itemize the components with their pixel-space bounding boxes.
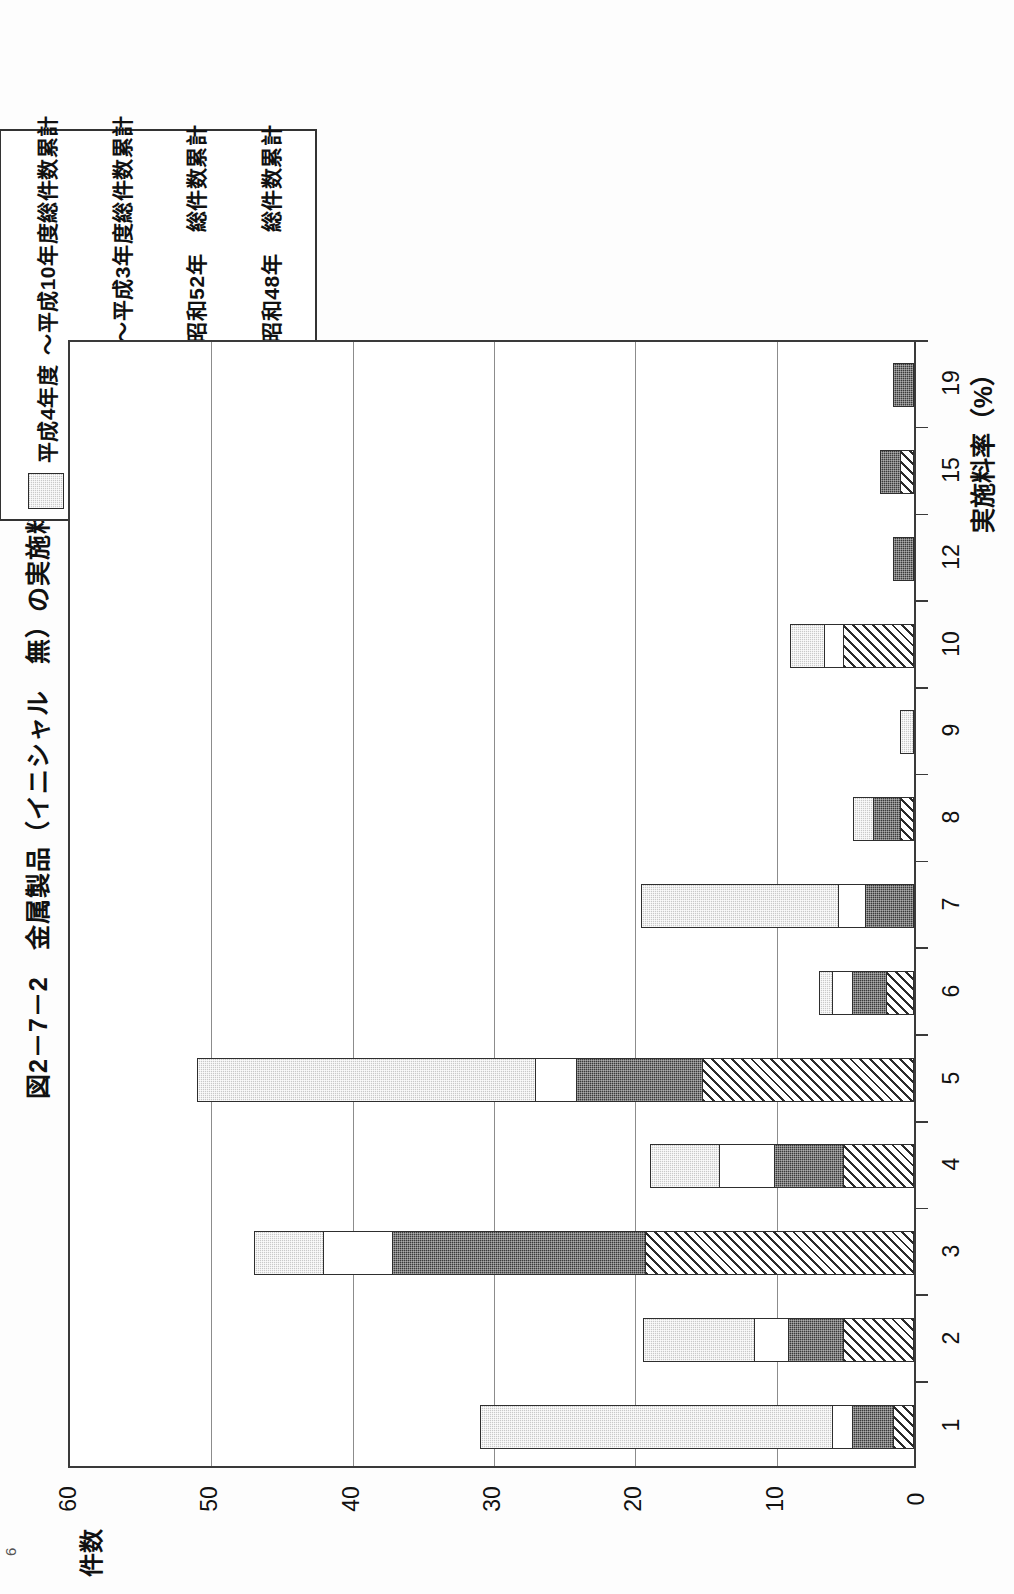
- bar-segment: [880, 450, 901, 494]
- value-tick-label: 40: [338, 1471, 364, 1527]
- bar-row: [199, 1058, 914, 1102]
- bar-segment: [900, 710, 914, 754]
- bar-row: [643, 884, 914, 928]
- category-tick-mark: [916, 947, 928, 949]
- bar-segment: [535, 1058, 577, 1102]
- category-tick-mark: [916, 861, 928, 863]
- bar-segment: [392, 1231, 646, 1275]
- bar-segment: [790, 624, 825, 668]
- category-tick-mark: [916, 687, 928, 689]
- legend-label-line1: 平成4年度: [31, 365, 61, 463]
- bar-row: [855, 797, 914, 841]
- bar-segment: [852, 1405, 894, 1449]
- value-tick-label: 20: [620, 1471, 646, 1527]
- category-tick-mark: [916, 514, 928, 516]
- category-tick-label: 5: [938, 1049, 964, 1107]
- gridline: [635, 342, 636, 1466]
- bar-segment: [838, 884, 866, 928]
- legend-label-line2: ～平成3年度総件数累計: [106, 115, 136, 342]
- bar-segment: [641, 884, 839, 928]
- category-tick-mark: [916, 1121, 928, 1123]
- category-tick-mark: [916, 1208, 928, 1210]
- category-tick-label: 6: [938, 962, 964, 1020]
- bar-row: [821, 971, 914, 1015]
- bar-segment: [873, 797, 901, 841]
- plot-area: [68, 340, 916, 1468]
- category-tick-mark: [916, 1381, 928, 1383]
- bar-row: [481, 1405, 914, 1449]
- bar-segment: [645, 1231, 914, 1275]
- bar-row: [255, 1231, 914, 1275]
- gridline: [494, 342, 495, 1466]
- bar-row: [651, 1144, 914, 1188]
- bar-segment: [893, 363, 914, 407]
- bar-segment: [576, 1058, 703, 1102]
- category-tick-label: 10: [938, 615, 964, 673]
- bar-segment: [843, 1318, 914, 1362]
- bar-segment: [480, 1405, 833, 1449]
- bar-row: [894, 363, 914, 407]
- category-tick-label: 1: [938, 1396, 964, 1454]
- category-tick-label: 2: [938, 1309, 964, 1367]
- category-tick-mark: [916, 340, 928, 342]
- bar-row: [894, 537, 914, 581]
- legend-label-line2: ～昭和52年 総件数累計: [180, 125, 210, 364]
- bar-segment: [788, 1318, 845, 1362]
- category-tick-label: 4: [938, 1135, 964, 1193]
- value-tick-label: 0: [903, 1471, 929, 1527]
- bar-segment: [254, 1231, 325, 1275]
- bar-segment: [197, 1058, 536, 1102]
- bar-segment: [702, 1058, 914, 1102]
- category-tick-mark: [916, 427, 928, 429]
- category-tick-mark: [916, 1034, 928, 1036]
- bar-segment: [843, 1144, 914, 1188]
- category-tick-label: 15: [938, 441, 964, 499]
- category-tick-label: 8: [938, 788, 964, 846]
- bar-row: [644, 1318, 914, 1362]
- category-axis-title: 実施料率（%）: [966, 322, 1000, 572]
- value-tick-label: 50: [196, 1471, 222, 1527]
- bar-segment: [893, 1405, 914, 1449]
- bar-segment: [852, 971, 887, 1015]
- bar-segment: [643, 1318, 756, 1362]
- value-tick-label: 10: [762, 1471, 788, 1527]
- bar-segment: [900, 797, 914, 841]
- category-tick-label: 9: [938, 701, 964, 759]
- category-tick-mark: [916, 1294, 928, 1296]
- bar-segment: [865, 884, 914, 928]
- bar-segment: [843, 624, 914, 668]
- bar-segment: [754, 1318, 789, 1362]
- bar-segment: [719, 1144, 776, 1188]
- bar-segment: [900, 450, 914, 494]
- category-tick-mark: [916, 600, 928, 602]
- value-tick-label: 30: [479, 1471, 505, 1527]
- bar-segment: [774, 1144, 845, 1188]
- category-tick-label: 3: [938, 1222, 964, 1280]
- bar-row: [881, 450, 914, 494]
- category-tick-label: 12: [938, 528, 964, 586]
- category-tick-label: 19: [938, 354, 964, 412]
- category-tick-mark: [916, 774, 928, 776]
- legend-swatch-light-gray-dotted: [28, 473, 64, 509]
- value-tick-label: 60: [55, 1471, 81, 1527]
- category-tick-label: 7: [938, 875, 964, 933]
- bar-segment: [832, 971, 853, 1015]
- bar-row: [791, 624, 914, 668]
- bar-segment: [323, 1231, 394, 1275]
- bar-segment: [824, 624, 845, 668]
- bar-segment: [886, 971, 914, 1015]
- bar-segment: [893, 537, 914, 581]
- legend-label-line2: ～昭和48年 総件数累計: [255, 125, 285, 364]
- legend-label-line2: ～平成10年度総件数累計: [31, 115, 61, 354]
- gridline: [353, 342, 354, 1466]
- page-number: 6: [2, 1548, 19, 1556]
- gridline: [211, 342, 212, 1466]
- bar-segment: [650, 1144, 721, 1188]
- bar-segment: [853, 797, 874, 841]
- legend-item: 平成4年度～平成10年度総件数累計: [28, 141, 64, 509]
- figure-page: 図2－7－2 金属製品（イニシャル 無）の実施料率別契約件数 平成4年度～平成1…: [0, 0, 1014, 1594]
- bar-row: [901, 710, 914, 754]
- bar-segment: [832, 1405, 853, 1449]
